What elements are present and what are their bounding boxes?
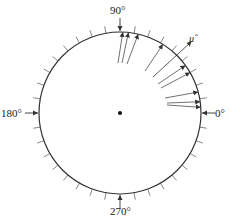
data-vector [165, 92, 198, 98]
label-180-degrees: 180° [1, 108, 22, 119]
tick-mark [76, 37, 80, 43]
tick-mark [196, 83, 203, 85]
center-dot [118, 111, 122, 115]
mean-direction-vector [153, 41, 192, 77]
label-0-degrees: 0° [215, 108, 225, 119]
tick-mark [44, 154, 50, 158]
tick-mark [37, 83, 44, 85]
data-vector [161, 73, 190, 89]
data-vector [167, 102, 200, 103]
tick-mark [105, 26, 106, 33]
tick-mark [90, 30, 92, 37]
tick-mark [53, 165, 58, 169]
tick-mark [172, 175, 176, 180]
tick-mark [182, 56, 187, 60]
tick-mark [172, 46, 176, 51]
tick-mark [33, 127, 40, 128]
tick-mark [190, 154, 196, 158]
data-vector [118, 32, 123, 63]
tick-mark [161, 37, 165, 43]
data-vector [145, 44, 163, 71]
label-90-degrees: 90° [110, 5, 125, 16]
label-270-degrees: 270° [110, 206, 131, 217]
tick-mark [148, 189, 150, 196]
tick-mark [90, 189, 92, 196]
tick-mark [134, 193, 135, 200]
data-vector [167, 105, 201, 107]
tick-mark [161, 183, 165, 189]
data-vector [127, 34, 138, 64]
tick-mark [44, 69, 50, 73]
mean-direction-label: μ̂ [189, 34, 194, 44]
tick-mark [182, 165, 187, 169]
tick-mark [200, 98, 207, 99]
tick-mark [190, 69, 196, 73]
tick-mark [105, 193, 106, 200]
tick-mark [37, 141, 44, 143]
tick-mark [63, 46, 67, 51]
circular-plot [0, 0, 230, 221]
tick-mark [76, 183, 80, 189]
tick-mark [148, 30, 150, 37]
tick-mark [63, 175, 67, 180]
tick-mark [196, 141, 203, 143]
tick-mark [200, 127, 207, 128]
tick-mark [134, 26, 135, 33]
tick-mark [53, 56, 58, 60]
tick-mark [33, 98, 40, 99]
data-vector [122, 32, 128, 63]
